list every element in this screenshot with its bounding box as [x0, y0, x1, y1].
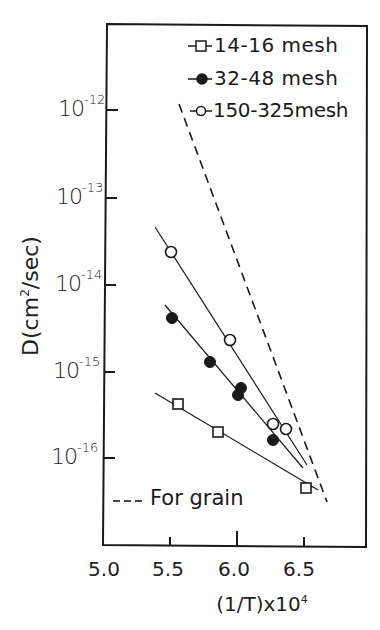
- data-point: [173, 399, 183, 409]
- y-label-text: D(cm: [18, 297, 43, 356]
- tick-exponent: -15: [79, 354, 100, 369]
- tick-base: 10: [55, 271, 81, 296]
- tick-exponent: -13: [82, 180, 103, 195]
- chart-canvas: [0, 0, 380, 630]
- legend-label-14-16-mesh: 14-16 mesh: [214, 33, 338, 57]
- y-tick-label: 10-15: [53, 358, 100, 383]
- y-tick-label: 10-13: [56, 184, 103, 209]
- legend-marker-32-48-mesh: [188, 74, 212, 84]
- grain-dashed-line: [179, 104, 327, 502]
- x-label-text: (1/T)x10: [216, 592, 301, 616]
- y-tick-label: 10-12: [58, 96, 105, 121]
- x-tick-label: 5.0: [88, 557, 120, 581]
- tick-base: 10: [53, 358, 79, 383]
- tick-base: 10: [56, 184, 82, 209]
- x-axis-ticks: [170, 531, 304, 546]
- x-tick-label: 5.5: [152, 557, 184, 581]
- x-label-exponent: 4: [301, 593, 308, 606]
- tick-exponent: -14: [81, 267, 102, 282]
- series-14-16-mesh: [173, 399, 311, 493]
- data-point: [268, 419, 279, 430]
- tick-exponent: -16: [77, 440, 98, 455]
- grain-legend-label: For grain: [150, 486, 243, 510]
- y-axis-label: D(cm2/sec): [18, 236, 43, 356]
- tick-base: 10: [51, 444, 77, 469]
- legend-label-32-48-mesh: 32-48 mesh: [214, 66, 338, 90]
- x-tick-label: 6.5: [283, 557, 315, 581]
- y-tick-label: 10-14: [55, 271, 102, 296]
- y-label-exponent: 2: [18, 289, 32, 297]
- data-point: [166, 247, 177, 258]
- data-point: [281, 424, 292, 435]
- legend-marker-150-325-mesh: [190, 107, 212, 116]
- legend-marker-14-16-mesh: [188, 41, 212, 51]
- data-point: [268, 435, 279, 446]
- x-tick-label: 6.0: [218, 557, 250, 581]
- series-150-325-mesh: [166, 247, 292, 435]
- y-tick-label: 10-16: [51, 444, 98, 469]
- data-point: [301, 483, 311, 493]
- fit-line-32-48-mesh: [165, 305, 303, 468]
- tick-base: 10: [58, 96, 84, 121]
- legend-label-150-325-mesh: 150-325mesh: [213, 98, 348, 122]
- data-point: [213, 427, 223, 437]
- data-point: [167, 313, 178, 324]
- x-axis-label: (1/T)x104: [216, 592, 308, 616]
- data-point: [205, 357, 216, 368]
- data-point: [225, 335, 236, 346]
- y-label-text-end: /sec): [18, 236, 43, 289]
- tick-exponent: -12: [84, 92, 105, 107]
- data-point: [233, 390, 244, 401]
